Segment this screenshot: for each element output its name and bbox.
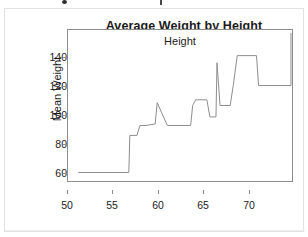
x-tick-label: 65 [188, 199, 218, 211]
figure-card: Average Weight by Height Mean Weight 140… [4, 8, 304, 232]
cut-off-top-row [0, 0, 308, 8]
x-tick-mark [112, 190, 113, 194]
caret-mark-icon [160, 0, 162, 5]
card-bottom-divider [5, 230, 305, 231]
x-axis: 50 55 60 65 70 [5, 190, 305, 233]
plot-area [67, 29, 293, 182]
step-line-series [68, 30, 292, 181]
step-line-path [78, 33, 291, 173]
x-tick-mark [249, 190, 250, 194]
x-tick-mark [203, 190, 204, 194]
screenshot-root: Average Weight by Height Mean Weight 140… [0, 0, 308, 237]
bullet-dot-icon [62, 0, 67, 4]
x-tick-mark [67, 190, 68, 194]
x-tick-mark [158, 190, 159, 194]
x-tick-label: 55 [97, 199, 127, 211]
x-axis-title: Height [67, 35, 293, 47]
x-tick-label: 60 [143, 199, 173, 211]
x-tick-label: 50 [52, 199, 82, 211]
x-tick-label: 70 [234, 199, 264, 211]
